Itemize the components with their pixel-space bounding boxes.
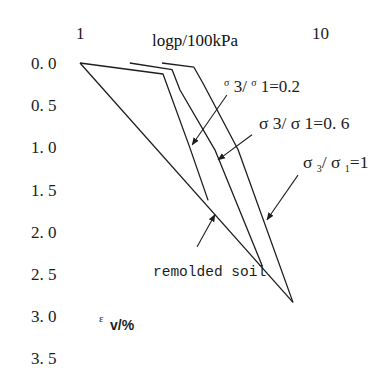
x-tick-1: 1: [76, 25, 85, 42]
plot-area: [0, 0, 392, 388]
ratio-1-arrow-icon: [267, 175, 298, 220]
subscript-3: 3: [317, 163, 322, 174]
y-tick: 3. 5: [31, 350, 57, 367]
annotation-ratio-1: σ 3/ σ 1=1: [303, 154, 368, 172]
y-tick: 1. 0: [31, 139, 57, 156]
sigma-symbol: σ: [303, 152, 317, 172]
y-tick: 2. 0: [31, 224, 57, 241]
y-tick: 0. 0: [31, 55, 57, 72]
x-axis-label: logp/100kPa: [152, 32, 238, 49]
y-axis-label-unit: v/%: [110, 318, 134, 332]
consolidation-chart: 1 10 logp/100kPa 0. 0 0. 5 1. 0 1. 5 2. …: [0, 0, 392, 388]
annotation-ratio-0-2: σ 3/ σ 1=0.2: [224, 78, 300, 95]
annotation-remolded-soil: remolded soil: [153, 265, 266, 280]
ratio-0-6-arrow-icon: [218, 135, 252, 160]
remolded-soil-arrow-icon: [197, 215, 215, 247]
y-axis-label-epsilon: ε: [99, 313, 104, 324]
annotation-text: 1=0.2: [257, 77, 301, 96]
annotation-text: / σ: [322, 152, 345, 172]
sigma-symbol: σ: [224, 77, 229, 88]
y-tick: 2. 5: [31, 266, 57, 283]
y-tick: 0. 5: [31, 97, 57, 114]
ratio-0-2-curve: [80, 63, 208, 200]
y-tick: 3. 0: [31, 308, 57, 325]
annotation-text: =1: [350, 152, 369, 172]
annotation-ratio-0-6: σ 3/ σ 1=0. 6: [259, 115, 349, 133]
annotation-text: 3/: [229, 77, 251, 96]
sigma-symbol: σ: [251, 77, 256, 88]
y-tick: 1. 5: [31, 182, 57, 199]
subscript-1: 1: [345, 163, 350, 174]
x-tick-10: 10: [312, 25, 329, 42]
